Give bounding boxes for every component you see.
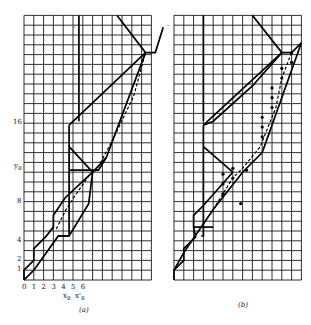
x-tick-label: 5 bbox=[71, 284, 75, 291]
stage-point-dot bbox=[239, 202, 242, 205]
stage-point-dot bbox=[245, 169, 248, 172]
stage-point-dot bbox=[261, 126, 264, 129]
stage-point-dot bbox=[261, 135, 264, 138]
stage-point-dot bbox=[231, 167, 234, 170]
panel-a-caption: (a) bbox=[79, 307, 89, 314]
x-tick-label: 2 bbox=[42, 284, 46, 291]
stage-point-dot bbox=[221, 173, 224, 176]
y-tick-label: 1 bbox=[17, 266, 21, 273]
stage-point-dot bbox=[270, 96, 273, 99]
y-tick-label: 8 bbox=[17, 198, 21, 205]
x-tick-label: 0 bbox=[22, 284, 26, 291]
panel-b-diagram bbox=[174, 15, 301, 280]
x-tick-label: 1 bbox=[32, 284, 36, 291]
operating-line bbox=[117, 15, 163, 52]
stray-mark: · bbox=[73, 25, 75, 32]
x-tick-label: 6 bbox=[81, 284, 85, 291]
stage-point-dot bbox=[290, 51, 293, 54]
x-tick-label: 3 bbox=[51, 284, 55, 291]
x-axis-sub-prime: B bbox=[81, 295, 85, 301]
operating-line bbox=[252, 15, 301, 52]
stage-point-dot bbox=[290, 61, 293, 64]
stage-point-dot bbox=[270, 86, 273, 89]
stage-point-dot bbox=[270, 106, 273, 109]
panel-a-x-axis-label: xB x'B bbox=[63, 293, 85, 302]
stage-point-dot bbox=[231, 176, 234, 179]
y-tick-label: 16 bbox=[13, 119, 22, 126]
stage-point-dot bbox=[280, 77, 283, 80]
panel-b-caption: (b) bbox=[238, 302, 248, 309]
operating-line bbox=[69, 53, 145, 126]
y-tick-label: 4 bbox=[17, 237, 21, 244]
operating-line bbox=[201, 125, 203, 236]
operating-line bbox=[203, 147, 232, 173]
stray-mark: · bbox=[167, 23, 169, 30]
y-axis-sub: B bbox=[18, 165, 22, 171]
stage-point-dot bbox=[221, 182, 224, 185]
stage-point-dot bbox=[280, 67, 283, 70]
figure-canvas bbox=[0, 0, 311, 325]
operating-line bbox=[24, 53, 146, 280]
x-axis-sub: B bbox=[67, 295, 71, 301]
y-tick-label: 2 bbox=[17, 256, 21, 263]
operating-line bbox=[58, 125, 69, 236]
stage-point-dot bbox=[261, 116, 264, 119]
stage-point-dot bbox=[221, 192, 224, 195]
operating-line bbox=[24, 172, 93, 280]
panel-a-diagram bbox=[24, 15, 163, 280]
panel-a-y-axis-label: yB bbox=[14, 163, 22, 172]
x-tick-label: 4 bbox=[61, 284, 65, 291]
